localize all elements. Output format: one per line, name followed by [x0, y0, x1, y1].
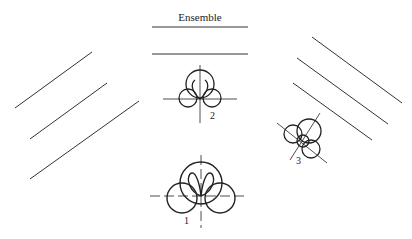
right-line-group: [293, 37, 402, 140]
pattern-2-label: 2: [210, 110, 215, 121]
pattern-3-label: 3: [296, 155, 301, 166]
right-line-3: [293, 83, 372, 140]
pattern-1-right-lobe: [205, 183, 235, 213]
left-line-1: [15, 52, 92, 108]
diagram-canvas: [0, 0, 412, 239]
left-line-group: [15, 52, 139, 179]
right-line-2: [297, 58, 388, 124]
pattern-3-axis-a: [277, 123, 327, 163]
ensemble-lines: [152, 27, 248, 54]
radiation-pattern-3: [277, 113, 327, 163]
left-line-2: [30, 83, 107, 139]
pattern-1-label: 1: [184, 215, 189, 226]
pattern-1-left-lobe: [167, 183, 197, 213]
radiation-pattern-1: [150, 155, 248, 228]
pattern-3-left-lobe: [284, 125, 302, 143]
radiation-pattern-2: [163, 65, 237, 123]
right-line-1: [312, 37, 402, 103]
left-line-3: [30, 101, 139, 179]
ensemble-title: Ensemble: [150, 11, 250, 23]
